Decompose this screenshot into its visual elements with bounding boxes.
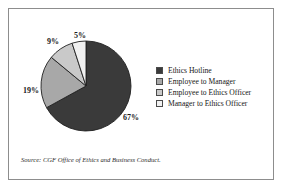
legend-item: Ethics Hotline xyxy=(156,65,268,76)
screenshot-root: 67% 19% 9% 5% Ethics Hotline Employee to… xyxy=(0,0,288,194)
slice-label-employee-to-ethics-officer: 9% xyxy=(47,37,59,46)
slice-label-ethics-hotline: 67% xyxy=(123,113,139,122)
legend-item-label: Manager to Ethics Officer xyxy=(168,98,247,109)
legend-item: Employee to Ethics Officer xyxy=(156,87,268,98)
slice-label-employee-to-manager: 19% xyxy=(23,86,39,95)
pie-chart-svg xyxy=(31,31,141,141)
slice-label-manager-to-ethics-officer: 5% xyxy=(74,31,86,40)
legend-item: Employee to Manager xyxy=(156,76,268,87)
legend-swatch-icon xyxy=(156,78,163,85)
figure-frame: 67% 19% 9% 5% Ethics Hotline Employee to… xyxy=(8,8,274,180)
legend-swatch-icon xyxy=(156,67,163,74)
legend-item: Manager to Ethics Officer xyxy=(156,98,268,109)
legend-swatch-icon xyxy=(156,100,163,107)
source-note: Source: CGF Office of Ethics and Busines… xyxy=(21,156,161,163)
legend-item-label: Ethics Hotline xyxy=(168,65,212,76)
pie-slices xyxy=(41,41,131,131)
chart-legend: Ethics Hotline Employee to Manager Emplo… xyxy=(156,65,268,109)
pie-chart-figure: 67% 19% 9% 5% Ethics Hotline Employee to… xyxy=(9,9,275,181)
legend-item-label: Employee to Ethics Officer xyxy=(168,87,251,98)
legend-item-label: Employee to Manager xyxy=(168,76,235,87)
legend-swatch-icon xyxy=(156,89,163,96)
